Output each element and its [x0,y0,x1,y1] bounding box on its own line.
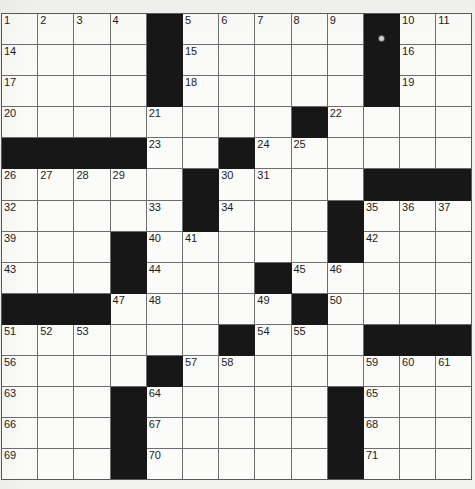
empty-cell[interactable] [38,418,74,449]
numbered-cell[interactable]: 18 [182,76,218,107]
empty-cell[interactable] [38,200,74,231]
numbered-cell[interactable]: 50 [327,293,363,324]
numbered-cell[interactable]: 41 [182,231,218,262]
empty-cell[interactable] [219,76,255,107]
numbered-cell[interactable]: 61 [436,356,472,387]
numbered-cell[interactable]: 68 [363,418,399,449]
empty-cell[interactable] [255,356,291,387]
numbered-cell[interactable]: 8 [291,14,327,45]
empty-cell[interactable] [327,45,363,76]
numbered-cell[interactable]: 3 [74,14,110,45]
numbered-cell[interactable]: 10 [400,14,436,45]
empty-cell[interactable] [146,169,182,200]
empty-cell[interactable] [400,293,436,324]
numbered-cell[interactable]: 70 [146,449,182,480]
empty-cell[interactable] [327,356,363,387]
empty-cell[interactable] [38,107,74,138]
empty-cell[interactable] [38,356,74,387]
empty-cell[interactable] [436,262,472,293]
numbered-cell[interactable]: 20 [2,107,38,138]
numbered-cell[interactable]: 5 [182,14,218,45]
empty-cell[interactable] [255,387,291,418]
empty-cell[interactable] [291,45,327,76]
numbered-cell[interactable]: 47 [110,293,146,324]
numbered-cell[interactable]: 51 [2,324,38,355]
numbered-cell[interactable]: 26 [2,169,38,200]
numbered-cell[interactable]: 42 [363,231,399,262]
empty-cell[interactable] [74,418,110,449]
empty-cell[interactable] [327,169,363,200]
empty-cell[interactable] [182,107,218,138]
numbered-cell[interactable]: 21 [146,107,182,138]
numbered-cell[interactable]: 14 [2,45,38,76]
empty-cell[interactable] [400,138,436,169]
empty-cell[interactable] [400,449,436,480]
empty-cell[interactable] [219,231,255,262]
empty-cell[interactable] [74,449,110,480]
numbered-cell[interactable]: 48 [146,293,182,324]
empty-cell[interactable] [327,324,363,355]
empty-cell[interactable] [363,107,399,138]
crossword-grid[interactable]: 1234567891011141516171819202122232425262… [1,13,472,480]
empty-cell[interactable] [436,138,472,169]
numbered-cell[interactable]: 22 [327,107,363,138]
empty-cell[interactable] [74,76,110,107]
numbered-cell[interactable]: 52 [38,324,74,355]
numbered-cell[interactable]: 2 [38,14,74,45]
empty-cell[interactable] [219,293,255,324]
empty-cell[interactable] [255,76,291,107]
numbered-cell[interactable]: 59 [363,356,399,387]
empty-cell[interactable] [182,138,218,169]
numbered-cell[interactable]: 7 [255,14,291,45]
numbered-cell[interactable]: 46 [327,262,363,293]
numbered-cell[interactable]: 57 [182,356,218,387]
numbered-cell[interactable]: 67 [146,418,182,449]
numbered-cell[interactable]: 55 [291,324,327,355]
numbered-cell[interactable]: 69 [2,449,38,480]
numbered-cell[interactable]: 27 [38,169,74,200]
numbered-cell[interactable]: 56 [2,356,38,387]
empty-cell[interactable] [74,107,110,138]
numbered-cell[interactable]: 64 [146,387,182,418]
empty-cell[interactable] [219,107,255,138]
numbered-cell[interactable]: 58 [219,356,255,387]
empty-cell[interactable] [38,449,74,480]
empty-cell[interactable] [74,356,110,387]
empty-cell[interactable] [74,262,110,293]
empty-cell[interactable] [110,324,146,355]
numbered-cell[interactable]: 34 [219,200,255,231]
numbered-cell[interactable]: 45 [291,262,327,293]
empty-cell[interactable] [182,418,218,449]
empty-cell[interactable] [74,231,110,262]
numbered-cell[interactable]: 60 [400,356,436,387]
empty-cell[interactable] [363,138,399,169]
numbered-cell[interactable]: 65 [363,387,399,418]
empty-cell[interactable] [327,76,363,107]
numbered-cell[interactable]: 1 [2,14,38,45]
empty-cell[interactable] [400,231,436,262]
numbered-cell[interactable]: 25 [291,138,327,169]
empty-cell[interactable] [110,76,146,107]
empty-cell[interactable] [74,45,110,76]
empty-cell[interactable] [400,387,436,418]
numbered-cell[interactable]: 19 [400,76,436,107]
numbered-cell[interactable]: 37 [436,200,472,231]
empty-cell[interactable] [255,449,291,480]
numbered-cell[interactable]: 24 [255,138,291,169]
numbered-cell[interactable]: 40 [146,231,182,262]
empty-cell[interactable] [363,293,399,324]
empty-cell[interactable] [219,45,255,76]
numbered-cell[interactable]: 28 [74,169,110,200]
empty-cell[interactable] [436,449,472,480]
empty-cell[interactable] [74,200,110,231]
empty-cell[interactable] [436,45,472,76]
numbered-cell[interactable]: 44 [146,262,182,293]
numbered-cell[interactable]: 49 [255,293,291,324]
empty-cell[interactable] [436,387,472,418]
empty-cell[interactable] [400,107,436,138]
empty-cell[interactable] [219,262,255,293]
numbered-cell[interactable]: 66 [2,418,38,449]
empty-cell[interactable] [436,231,472,262]
empty-cell[interactable] [255,107,291,138]
empty-cell[interactable] [291,356,327,387]
